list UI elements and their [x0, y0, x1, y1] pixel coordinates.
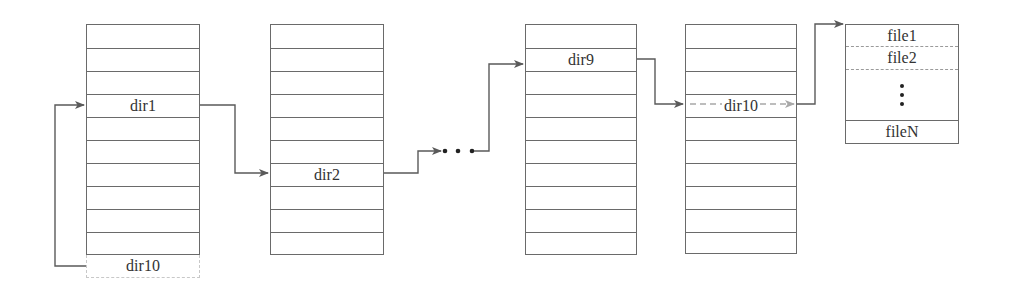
table-9-row-4: [526, 117, 636, 140]
file1-label: file1: [887, 27, 916, 45]
dir9-to-dir10-arrow: [637, 59, 683, 104]
table-1-overflow-dir10: dir10: [86, 255, 200, 278]
directory-table-2: dir2: [270, 24, 384, 255]
table-9-row-6: [526, 163, 636, 186]
table-9-row-3: [526, 94, 636, 117]
dir10-label: dir10: [722, 97, 760, 115]
table-1-row-1: [87, 48, 199, 71]
table-2-row-3: [271, 94, 383, 117]
table-2-row-0: [271, 25, 383, 48]
table-2-row-8: [271, 209, 383, 232]
table-1-row-7: [87, 186, 199, 209]
table-1-row-6: [87, 163, 199, 186]
table-1-row-5: [87, 140, 199, 163]
table-1-row-4: [87, 117, 199, 140]
table-2-row-5: [271, 140, 383, 163]
file-row-n: fileN: [846, 120, 958, 143]
table-1-row-2: [87, 71, 199, 94]
dir9-label: dir9: [568, 51, 594, 69]
table-10-row-5: [686, 140, 796, 163]
table-1-row-0: [87, 25, 199, 48]
table-9-row-7: [526, 186, 636, 209]
table-1-row-9: [87, 232, 199, 254]
table-10-row-0: [686, 25, 796, 48]
dir10-overflow-label: dir10: [126, 257, 160, 275]
dir1-to-dir2-arrow: [200, 105, 268, 173]
loop-back-arrow: [55, 105, 86, 266]
table-9-row-8: [526, 209, 636, 232]
diagram-canvas: dir1 dir10 dir2 dir9: [0, 0, 1009, 287]
table-10-row-8: [686, 209, 796, 232]
vertical-ellipsis-icon: [900, 84, 904, 106]
file-list-box: file1 file2 fileN: [845, 24, 959, 144]
table-10-row-7: [686, 186, 796, 209]
ellipsis-to-dir9-arrow: [474, 64, 523, 151]
table-1-entry-dir1: dir1: [87, 94, 199, 117]
table-10-row-6: [686, 163, 796, 186]
file2-label: file2: [887, 49, 916, 67]
table-2-row-9: [271, 232, 383, 254]
fileN-label: fileN: [886, 123, 919, 141]
directory-table-10: dir10: [685, 24, 797, 254]
dir2-to-ellipsis-arrow: [384, 151, 441, 173]
file-row-1: file1: [846, 25, 958, 47]
table-9-row-9: [526, 232, 636, 254]
table-9-row-0: [526, 25, 636, 48]
dir1-label: dir1: [130, 97, 156, 115]
dir2-label: dir2: [314, 166, 340, 184]
table-10-row-4: [686, 117, 796, 140]
table-10-entry-dir10: dir10: [686, 94, 796, 117]
file-row-2: file2: [846, 47, 958, 70]
directory-table-1: dir1: [86, 24, 200, 255]
file-row-ellipsis: [846, 70, 958, 120]
dir10-to-files-arrow: [797, 24, 843, 104]
table-10-row-2: [686, 71, 796, 94]
table-9-row-5: [526, 140, 636, 163]
table-2-entry-dir2: dir2: [271, 163, 383, 186]
table-1-row-8: [87, 209, 199, 232]
table-2-row-2: [271, 71, 383, 94]
table-2-row-7: [271, 186, 383, 209]
table-2-row-4: [271, 117, 383, 140]
directory-table-9: dir9: [525, 24, 637, 255]
horizontal-ellipsis-icon: [443, 149, 475, 154]
table-9-entry-dir9: dir9: [526, 48, 636, 71]
table-10-row-1: [686, 48, 796, 71]
table-2-row-1: [271, 48, 383, 71]
table-9-row-2: [526, 71, 636, 94]
table-10-row-9: [686, 232, 796, 253]
